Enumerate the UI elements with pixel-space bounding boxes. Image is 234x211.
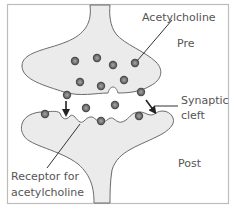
vesicle — [71, 57, 79, 65]
synaptic-cleft-label-line2: cleft — [181, 109, 206, 122]
vesicle — [93, 54, 101, 62]
synaptic-cleft-label-line1: Synaptic — [181, 94, 229, 107]
receptor-label-line2: acetylcholine — [11, 186, 84, 199]
vesicle — [76, 78, 84, 86]
vesicle — [97, 82, 105, 90]
vesicle — [120, 76, 128, 84]
vesicle — [41, 110, 49, 118]
vesicle — [63, 91, 71, 99]
vesicle — [109, 61, 117, 69]
pre-label: Pre — [177, 37, 195, 50]
receptor-label-line1: Receptor for — [11, 170, 79, 183]
vesicle — [97, 117, 105, 125]
vesicle — [111, 101, 119, 109]
vesicle — [135, 112, 143, 120]
acetylcholine-label: Acetylcholine — [142, 11, 216, 24]
vesicle — [137, 88, 145, 96]
synapse-diagram: Acetylcholine Pre Synaptic cleft Post Re… — [0, 0, 234, 211]
vesicle — [82, 104, 90, 112]
post-label: Post — [178, 157, 202, 170]
